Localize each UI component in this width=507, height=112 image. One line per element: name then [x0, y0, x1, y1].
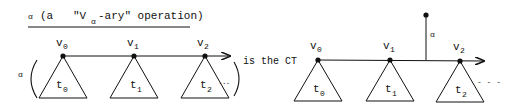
node-sub: 2	[460, 46, 465, 55]
node-sub: 0	[317, 45, 322, 54]
tree-sub: 0	[320, 89, 325, 98]
tree-label: t	[130, 79, 137, 91]
ct-diagram: α (a "V α -ary" operation) v 0 t 0 v 1 t…	[0, 0, 507, 112]
node-sub: 1	[390, 45, 395, 54]
tree-label: t	[313, 83, 320, 95]
title: α (a "V α -ary" operation)	[28, 10, 204, 27]
title-rest: -ary" operation)	[98, 10, 204, 22]
subtree-triangle	[110, 56, 158, 98]
left-node-2: v 2 t 2	[181, 37, 229, 98]
left-node-0: v 0 t 0	[39, 37, 87, 98]
title-sub: α	[91, 17, 96, 26]
tree-label: t	[56, 79, 63, 91]
node-sub: 0	[63, 42, 68, 51]
node-label: v	[383, 40, 390, 52]
tree-sub: 2	[207, 85, 212, 94]
right-paren	[234, 62, 239, 96]
tree-sub: 1	[392, 89, 397, 98]
operator-label: α	[430, 30, 435, 39]
node-dot	[60, 53, 65, 58]
right-diagram: α v 0 t 0 v 1 t 1 v 2 t 2 - - -	[294, 12, 501, 102]
node-dot	[131, 53, 136, 58]
operator-label: α	[18, 70, 23, 79]
node-sub: 2	[204, 42, 209, 51]
node-label: v	[127, 37, 134, 49]
node-label: v	[197, 37, 204, 49]
tree-sub: 0	[63, 85, 68, 94]
tree-label: t	[200, 79, 207, 91]
continuation-dots: ...	[218, 77, 229, 86]
node-dot	[315, 57, 320, 62]
tree-label: t	[455, 84, 462, 96]
right-node-2: v 2 t 2	[436, 41, 484, 102]
node-dot	[457, 58, 462, 63]
node-label: v	[453, 41, 460, 53]
title-open: (a	[40, 10, 54, 22]
operator-dot	[423, 12, 428, 17]
node-label: v	[56, 37, 63, 49]
node-sub: 1	[134, 42, 139, 51]
title-symbol: α	[28, 12, 33, 21]
suffix-text: is the CT	[243, 56, 297, 67]
continuation-dashes: - - -	[477, 77, 501, 86]
right-node-0: v 0 t 0	[294, 40, 342, 101]
left-paren	[31, 60, 37, 98]
title-quote: "V	[73, 10, 87, 22]
tree-sub: 1	[137, 85, 142, 94]
left-node-1: v 1 t 1	[110, 37, 158, 98]
node-label: v	[310, 40, 317, 52]
right-node-1: v 1 t 1	[366, 40, 414, 101]
node-dot	[202, 53, 207, 58]
left-diagram: v 0 t 0 v 1 t 1 v 2 t 2 α ... is th	[18, 37, 297, 98]
node-dot	[387, 57, 392, 62]
tree-label: t	[385, 83, 392, 95]
tree-sub: 2	[462, 90, 467, 99]
